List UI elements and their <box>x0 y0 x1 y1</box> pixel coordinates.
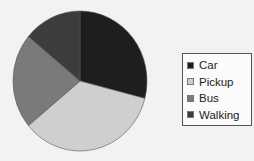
legend-swatch-walking <box>187 111 194 118</box>
legend-label-car: Car <box>199 59 218 71</box>
chart-legend: Car Pickup Bus Walking <box>182 53 252 126</box>
legend-item-bus: Bus <box>187 90 251 107</box>
legend-label-bus: Bus <box>199 92 219 104</box>
legend-label-pickup: Pickup <box>199 76 234 88</box>
legend-label-walking: Walking <box>199 109 239 121</box>
legend-item-walking: Walking <box>187 107 251 124</box>
legend-item-car: Car <box>187 57 251 74</box>
legend-swatch-car <box>187 62 194 69</box>
legend-swatch-bus <box>187 95 194 102</box>
legend-item-pickup: Pickup <box>187 74 251 91</box>
legend-swatch-pickup <box>187 78 194 85</box>
pie-chart <box>0 0 170 161</box>
